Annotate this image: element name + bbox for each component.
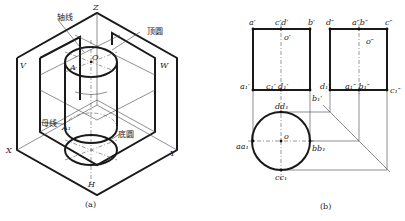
figure-b-orthographic: a′ c′d′ b′ o′ a₁′ c₁′ d₁′ b₁′ d″ a″b″ c″… (236, 18, 401, 211)
label-cc1: cc₁ (275, 173, 287, 182)
label-b-prime: b′ (308, 18, 315, 27)
label-b1-prime: b₁′ (312, 94, 322, 103)
point-a-label: A (69, 63, 76, 72)
label-cd1-prime: c₁′ d₁′ (266, 82, 288, 91)
label-c1-double-prime: c₁″ (390, 86, 401, 95)
x-axis-label: X (5, 146, 12, 155)
label-o: o (284, 132, 289, 141)
axis-annotation: 轴线 (57, 12, 73, 22)
v-plane-label: V (20, 61, 27, 70)
caption-a: (a) (85, 200, 96, 209)
label-o-prime: o′ (284, 33, 291, 42)
h-plane-label: H (87, 180, 96, 189)
generatrix-annotation: 母线 (41, 118, 57, 128)
top-circle-annotation: 顶圆 (147, 27, 163, 36)
point-a1-label: A₁ (61, 123, 71, 132)
label-d1-double-prime: d₁″ (320, 82, 331, 91)
label-dd1: dd₁ (275, 102, 288, 111)
label-a-prime: a′ (249, 18, 256, 27)
figure-a-isometric: Z X Y V W H O A A₁ 轴线 顶圆 母线 底圆 (a) (5, 3, 177, 209)
label-ab1-double-prime: a₁″ b₁″ (345, 82, 370, 91)
label-ab-double-prime: a″b″ (352, 18, 368, 27)
point-o-label: O (92, 53, 99, 62)
cylinder-projection-diagram: Z X Y V W H O A A₁ 轴线 顶圆 母线 底圆 (a) (0, 0, 405, 221)
label-a1-prime: a₁′ (240, 82, 250, 91)
label-d-double-prime: d″ (326, 18, 334, 27)
label-bb1: bb₁ (312, 144, 325, 153)
label-cd-prime: c′d′ (275, 18, 288, 27)
z-axis-label: Z (92, 3, 99, 12)
bottom-circle-annotation: 底圆 (118, 129, 134, 139)
label-aa1: aa₁ (236, 142, 249, 151)
caption-b: (b) (320, 202, 331, 211)
y-axis-label: Y (170, 149, 176, 158)
label-o-double-prime: o″ (366, 37, 374, 46)
label-c-double-prime: c″ (385, 18, 392, 27)
w-plane-label: W (160, 61, 169, 70)
